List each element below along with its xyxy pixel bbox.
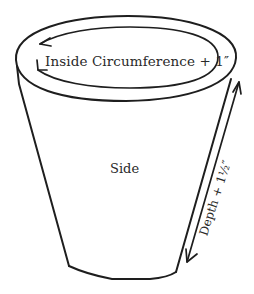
pot-diagram: Inside Circumference + 1″ Side Depth + 1…: [0, 0, 254, 294]
bottom-edge: [69, 266, 176, 279]
pot-drawing: [0, 0, 254, 294]
side-left-edge: [17, 66, 69, 266]
side-label: Side: [110, 162, 139, 175]
arrowhead-bottom-icon: [186, 249, 197, 262]
depth-arrow-line: [187, 82, 239, 262]
circumference-label: Inside Circumference + 1″: [45, 55, 229, 69]
arrowhead-top-left-icon: [40, 38, 51, 46]
